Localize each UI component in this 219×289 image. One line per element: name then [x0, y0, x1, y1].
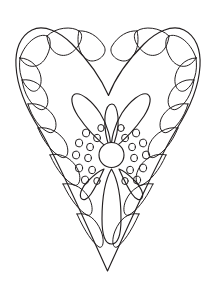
flower-center-circle	[99, 143, 124, 168]
canvas-root	[0, 0, 219, 289]
heart-coloring-illustration	[0, 0, 219, 289]
